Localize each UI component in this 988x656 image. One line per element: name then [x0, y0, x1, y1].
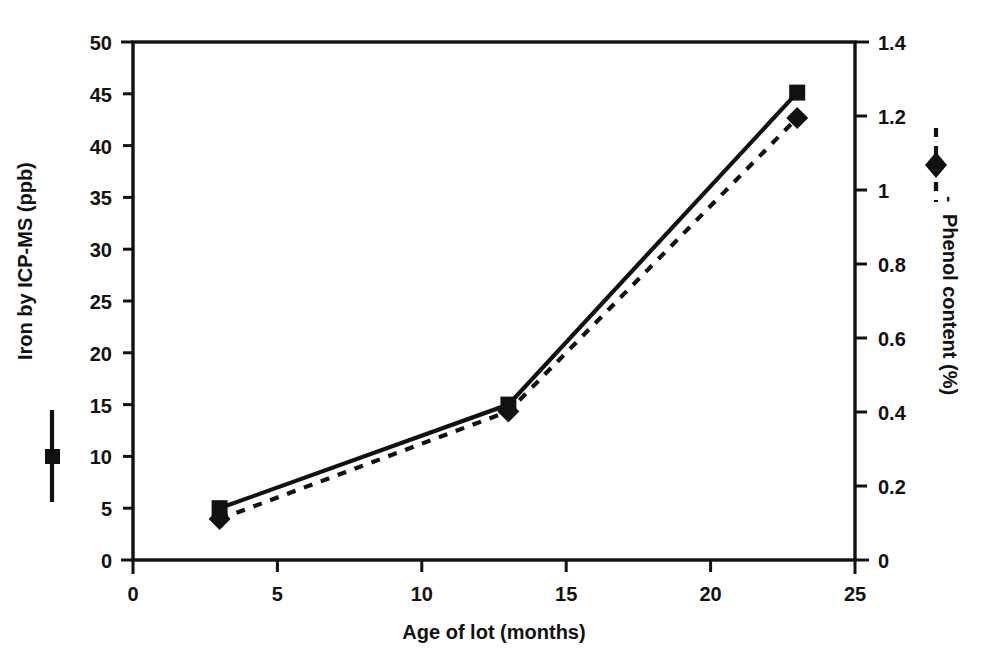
y-left-tick-label: 10	[90, 446, 112, 468]
y-left-axis-tick-labels: 50 45 40 35 30 25 20 15 10 5 0	[90, 32, 112, 572]
series-iron-line	[220, 93, 798, 509]
chart-figure: 50 45 40 35 30 25 20 15 10 5 0 1.4 1.2	[0, 0, 988, 656]
y-left-tick-label: 0	[101, 550, 112, 572]
plot-frame	[133, 42, 855, 560]
x-tick-label: 10	[411, 583, 433, 605]
y-left-tick-label: 35	[90, 187, 112, 209]
y-right-tick-label: 1	[878, 180, 889, 202]
y-right-axis-ticks	[855, 42, 869, 560]
x-tick-label: 0	[127, 583, 138, 605]
y-right-axis-tick-labels: 1.4 1.2 1 0.8 0.6 0.4 0.2 0	[878, 32, 907, 572]
x-tick-label: 20	[699, 583, 721, 605]
y-left-tick-label: 5	[101, 498, 112, 520]
x-axis-tick-labels: 0 5 10 15 20 25	[127, 583, 866, 605]
y-right-axis-label: Phenol content (%)	[939, 214, 961, 395]
y-left-tick-label: 15	[90, 395, 112, 417]
y-left-tick-label: 40	[90, 136, 112, 158]
x-tick-label: 25	[844, 583, 866, 605]
y-right-axis-label-prefix: -	[939, 196, 960, 202]
y-left-tick-label: 45	[90, 84, 112, 106]
y-right-tick-label: 0.4	[878, 402, 907, 424]
y-right-tick-label: 0.6	[878, 328, 906, 350]
y-left-axis-ticks	[121, 42, 133, 560]
legend-iron-square-marker	[45, 449, 60, 464]
x-axis-label: Age of lot (months)	[402, 621, 585, 643]
legend-iron[interactable]: Iron by ICP-MS (ppb)	[14, 162, 60, 502]
y-right-tick-label: 1.4	[878, 32, 907, 54]
y-right-tick-label: 0.8	[878, 254, 906, 276]
legend-phenol-diamond-marker	[925, 152, 947, 178]
y-left-tick-label: 20	[90, 343, 112, 365]
y-left-axis-label: Iron by ICP-MS (ppb)	[14, 162, 36, 360]
x-axis-ticks	[133, 560, 855, 574]
x-tick-label: 5	[272, 583, 283, 605]
legend-phenol[interactable]: - Phenol content (%)	[925, 128, 961, 395]
y-right-tick-label: 0.2	[878, 476, 906, 498]
y-left-tick-label: 50	[90, 32, 112, 54]
data-point-marker	[789, 85, 805, 101]
y-left-tick-label: 30	[90, 239, 112, 261]
series-iron	[212, 85, 806, 517]
y-right-tick-label: 1.2	[878, 106, 906, 128]
series-phenol-line	[220, 118, 798, 519]
y-right-tick-label: 0	[878, 550, 889, 572]
x-tick-label: 15	[555, 583, 577, 605]
y-left-tick-label: 25	[90, 291, 112, 313]
line-chart: 50 45 40 35 30 25 20 15 10 5 0 1.4 1.2	[0, 0, 988, 656]
series-phenol	[209, 107, 809, 530]
